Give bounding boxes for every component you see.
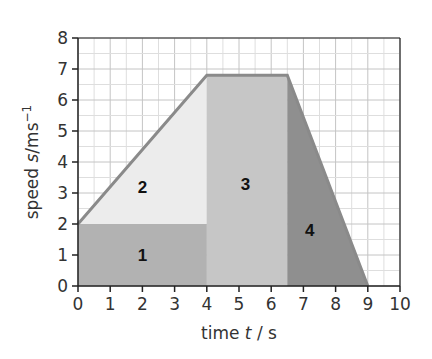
y-tick-label: 3 bbox=[57, 183, 68, 203]
x-axis-ticks: 012345678910 bbox=[73, 286, 411, 314]
x-tick-label: 5 bbox=[234, 294, 245, 314]
chart-regions bbox=[78, 75, 368, 286]
y-tick-label: 7 bbox=[57, 59, 68, 79]
x-axis-title: time t / s bbox=[201, 323, 277, 343]
x-tick-label: 7 bbox=[298, 294, 309, 314]
region-label-3: 3 bbox=[241, 175, 250, 194]
y-tick-label: 5 bbox=[57, 121, 68, 141]
y-tick-label: 8 bbox=[57, 28, 68, 48]
x-tick-label: 9 bbox=[362, 294, 373, 314]
x-tick-label: 3 bbox=[169, 294, 180, 314]
y-tick-label: 0 bbox=[57, 276, 68, 296]
x-tick-label: 4 bbox=[201, 294, 212, 314]
y-axis-title: speed s/ms−1 bbox=[20, 105, 42, 219]
region-label-1: 1 bbox=[138, 246, 147, 265]
y-tick-label: 1 bbox=[57, 245, 68, 265]
x-tick-label: 1 bbox=[105, 294, 116, 314]
x-tick-label: 2 bbox=[137, 294, 148, 314]
x-tick-label: 10 bbox=[389, 294, 411, 314]
region-label-2: 2 bbox=[138, 178, 147, 197]
speed-time-chart: 012345678910 012345678 1234 time t / s s… bbox=[0, 0, 432, 359]
y-axis-ticks: 012345678 bbox=[57, 28, 78, 296]
x-tick-label: 0 bbox=[73, 294, 84, 314]
y-tick-label: 2 bbox=[57, 214, 68, 234]
x-tick-label: 8 bbox=[330, 294, 341, 314]
region-label-4: 4 bbox=[305, 221, 315, 240]
x-tick-label: 6 bbox=[266, 294, 277, 314]
y-tick-label: 6 bbox=[57, 90, 68, 110]
y-tick-label: 4 bbox=[57, 152, 68, 172]
